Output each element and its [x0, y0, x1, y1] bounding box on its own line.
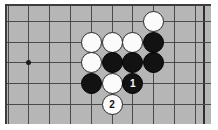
stone-black[interactable]: [102, 52, 123, 73]
stone-move-1[interactable]: 1: [122, 73, 143, 94]
frame-gutter-right: [211, 4, 213, 126]
grid-line-vertical: [70, 6, 71, 124]
stone-black[interactable]: [122, 52, 143, 73]
board-edge-right: [203, 6, 205, 124]
stone-black[interactable]: [143, 32, 164, 53]
stone-white[interactable]: [143, 11, 164, 32]
stone-black[interactable]: [81, 73, 102, 94]
go-board[interactable]: 12: [7, 6, 211, 124]
stone-move-number: 2: [109, 99, 115, 109]
star-point: [26, 60, 31, 65]
grid-line-vertical: [8, 6, 9, 124]
stone-black[interactable]: [143, 52, 164, 73]
grid-line-vertical: [174, 6, 175, 124]
grid-line-vertical: [49, 6, 50, 124]
stone-white[interactable]: [81, 52, 102, 73]
frame-gutter-bottom: [5, 124, 213, 126]
stone-move-2[interactable]: 2: [102, 94, 123, 115]
grid-line-horizontal: [7, 21, 211, 22]
grid-line-vertical: [195, 6, 196, 124]
stone-white[interactable]: [81, 32, 102, 53]
go-diagram-figure: 12: [0, 0, 218, 130]
stone-white[interactable]: [102, 32, 123, 53]
stone-move-number: 1: [130, 78, 136, 88]
stone-white[interactable]: [122, 32, 143, 53]
stone-white[interactable]: [102, 73, 123, 94]
